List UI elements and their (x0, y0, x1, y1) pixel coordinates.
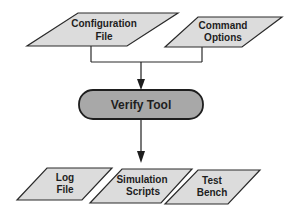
input-command-options[interactable]: Command Options (165, 17, 282, 47)
output-label-line2: Scripts (126, 186, 160, 197)
input-label-line2: File (95, 31, 113, 42)
output-connector (137, 120, 145, 163)
process-label: Verify Tool (111, 98, 171, 112)
output-label-line2: Bench (197, 187, 228, 198)
output-label-line1: Simulation (116, 174, 167, 185)
output-label-line1: Test (202, 175, 222, 186)
output-label-line2: File (56, 184, 74, 195)
input-configuration-file[interactable]: Configuration File (27, 13, 178, 46)
process-verify-tool[interactable]: Verify Tool (79, 90, 203, 119)
output-label-line1: Log (56, 172, 74, 183)
input-label-line2: Options (204, 32, 242, 43)
input-label-line1: Configuration (71, 18, 137, 29)
input-connectors (91, 45, 202, 90)
input-label-line1: Command (199, 20, 248, 31)
arrowhead-icon (137, 151, 145, 163)
flowchart-diagram: Configuration File Command Options Verif… (0, 0, 294, 215)
arrowhead-icon (137, 79, 145, 90)
